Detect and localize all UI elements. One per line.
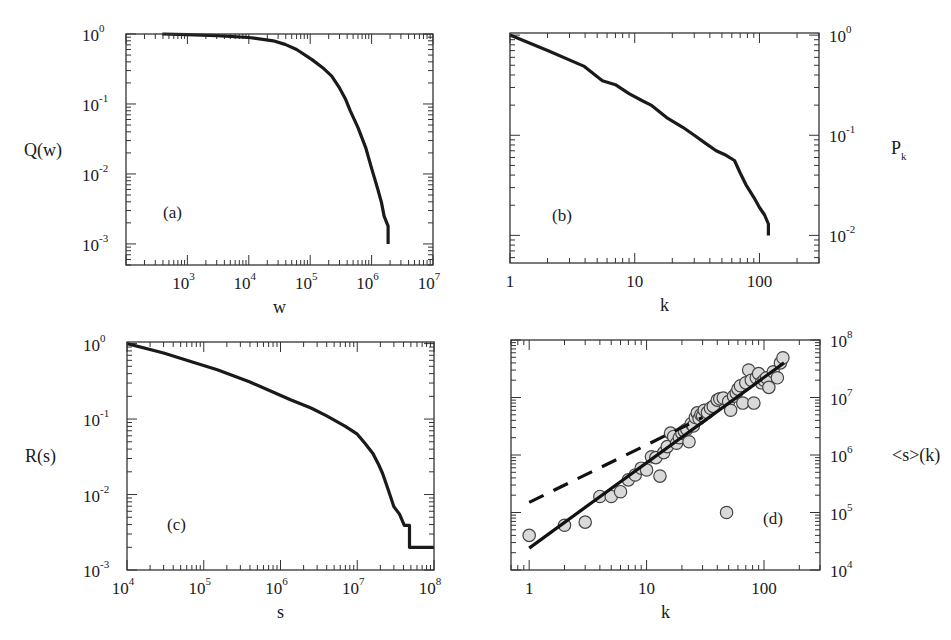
y-tick-label: 10-1 <box>83 407 109 430</box>
axis-ticks <box>127 342 434 570</box>
x-tick-label: 107 <box>342 575 365 598</box>
panel-d: 110100108107106105104k<s>(k)(d) <box>511 328 940 622</box>
data-point <box>771 372 783 384</box>
x-tick-label: 1 <box>506 272 515 291</box>
y-tick-label: 100 <box>829 23 852 46</box>
y-tick-label: 106 <box>830 443 853 466</box>
y-tick-label: 105 <box>830 501 853 524</box>
panel-label: (b) <box>552 206 572 225</box>
y-tick-label: 10-1 <box>82 92 108 115</box>
figure-four-panel-loglog: 10310410510610710010-110-210-3wQ(w)(a) 1… <box>0 0 951 640</box>
panel-label: (d) <box>763 509 783 528</box>
y-tick-label: 10-2 <box>82 162 108 185</box>
panel-a: 10310410510610710010-110-210-3wQ(w)(a) <box>24 22 441 317</box>
data-point <box>523 529 535 541</box>
y-tick-label: 104 <box>830 558 853 581</box>
y-tick-label: 10-3 <box>82 232 109 255</box>
x-tick-label: 107 <box>418 270 441 293</box>
solid-fit-line <box>529 363 784 548</box>
axis-ticks <box>510 33 819 263</box>
panel-c: 10410510610710810010-110-210-3sR(s)(c) <box>25 332 442 622</box>
x-tick-label: 1 <box>525 579 534 598</box>
y-tick-label: 107 <box>830 386 853 409</box>
plot-area <box>510 35 768 235</box>
panel-label: (c) <box>167 515 186 534</box>
panel-b: 11010010010-110-2kPk(b) <box>506 23 907 315</box>
y-axis-label: <s>(k) <box>892 445 940 466</box>
x-axis-label: k <box>660 295 669 315</box>
x-tick-label: 100 <box>751 579 777 598</box>
plot-area <box>523 352 789 548</box>
x-tick-label: 103 <box>172 270 195 293</box>
x-tick-label: 100 <box>747 272 773 291</box>
x-tick-label: 10 <box>626 272 643 291</box>
x-tick-label: 108 <box>419 575 442 598</box>
y-axis-label: Q(w) <box>24 140 62 161</box>
data-point <box>654 470 666 482</box>
x-tick-label: 106 <box>356 270 379 293</box>
data-curve <box>162 34 388 244</box>
y-tick-label: 10-1 <box>829 123 855 146</box>
y-tick-label: 100 <box>83 332 106 355</box>
y-tick-label: 10-2 <box>83 483 109 506</box>
x-axis-label: s <box>277 602 284 622</box>
y-tick-label: 100 <box>82 22 105 45</box>
plot-frame <box>510 33 819 263</box>
scatter-points <box>523 352 789 542</box>
y-tick-label: 10-3 <box>83 558 110 581</box>
panel-label: (a) <box>163 203 182 222</box>
y-axis-label: R(s) <box>25 446 56 467</box>
data-curve <box>510 35 768 235</box>
x-tick-label: 105 <box>295 270 318 293</box>
x-tick-label: 104 <box>234 270 257 293</box>
y-axis-label: Pk <box>891 138 907 162</box>
data-point <box>579 516 591 528</box>
x-tick-label: 104 <box>112 575 135 598</box>
plot-area <box>162 34 388 244</box>
data-point <box>748 397 760 409</box>
y-tick-label: 108 <box>830 328 853 351</box>
data-point <box>720 506 732 518</box>
x-axis-label: k <box>661 602 670 622</box>
x-tick-label: 105 <box>189 575 212 598</box>
y-tick-label: 10-2 <box>829 223 855 246</box>
x-tick-label: 10 <box>638 579 655 598</box>
data-point <box>683 436 695 448</box>
plot-frame <box>127 342 434 570</box>
data-point <box>614 486 626 498</box>
x-tick-label: 106 <box>265 575 288 598</box>
x-axis-label: w <box>273 297 286 317</box>
